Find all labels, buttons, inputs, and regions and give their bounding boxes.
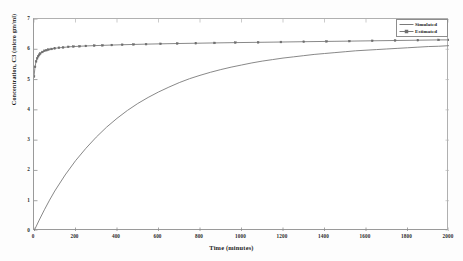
y-tick-label: 5 (18, 76, 30, 82)
series-marker-estimated (54, 47, 56, 49)
x-tick-label: 600 (153, 233, 161, 239)
x-tick-label: 1200 (277, 233, 288, 239)
chart-svg (34, 19, 449, 231)
series-marker-estimated (257, 41, 259, 43)
series-marker-estimated (121, 44, 123, 46)
y-tick-label: 0 (18, 227, 30, 233)
x-tick-label: 2000 (443, 233, 454, 239)
series-marker-estimated (111, 44, 113, 46)
series-line-simulated (34, 46, 449, 231)
legend-label-estimated: Estimated (415, 29, 437, 34)
y-tick-label: 3 (18, 136, 30, 142)
plot-area (33, 18, 448, 230)
figure-canvas: 0200400600800100012001400160018002000 01… (0, 0, 463, 261)
series-marker-estimated (79, 45, 81, 47)
x-tick-label: 1800 (401, 233, 412, 239)
series-marker-estimated (234, 42, 236, 44)
series-layer (34, 39, 449, 231)
series-marker-estimated (62, 47, 64, 49)
series-marker-estimated (36, 57, 38, 59)
series-marker-estimated (48, 49, 50, 51)
series-marker-estimated (35, 61, 37, 63)
x-tick-label: 0 (32, 233, 35, 239)
x-tick-label: 800 (195, 233, 203, 239)
x-tick-label: 200 (70, 233, 78, 239)
x-tick-label: 400 (112, 233, 120, 239)
legend[interactable]: Simulated Estimated (396, 19, 448, 37)
series-marker-estimated (176, 43, 178, 45)
series-marker-estimated (349, 40, 351, 42)
axis-tickmarks (34, 19, 449, 231)
series-marker-estimated (67, 46, 69, 48)
series-marker-estimated (448, 39, 449, 41)
series-marker-estimated (93, 45, 95, 47)
series-marker-estimated (133, 44, 135, 46)
legend-item-estimated[interactable]: Estimated (398, 28, 446, 35)
legend-line-estimated (399, 28, 414, 35)
series-marker-estimated (303, 41, 305, 43)
series-line-estimated (34, 40, 449, 77)
x-tick-label: 1600 (360, 233, 371, 239)
series-marker-estimated (438, 39, 440, 41)
y-tick-label: 6 (18, 45, 30, 51)
legend-label-simulated: Simulated (415, 22, 437, 27)
series-marker-estimated (73, 46, 75, 48)
legend-item-simulated[interactable]: Simulated (398, 21, 446, 28)
y-axis-title: Concentration, C3 (micro gm/ml) (10, 0, 17, 135)
y-tick-label: 7 (18, 15, 30, 21)
x-tick-label: 1400 (318, 233, 329, 239)
series-marker-estimated (51, 48, 53, 50)
series-marker-estimated (46, 49, 48, 51)
series-marker-estimated (34, 66, 36, 68)
series-marker-estimated (145, 43, 147, 45)
y-tick-label: 1 (18, 197, 30, 203)
series-marker-estimated (39, 53, 41, 55)
series-marker-estimated (102, 44, 104, 46)
series-marker-estimated (326, 41, 328, 43)
x-tick-label: 1000 (235, 233, 246, 239)
series-marker-estimated (34, 76, 35, 78)
y-tick-label: 2 (18, 166, 30, 172)
series-marker-estimated (41, 51, 43, 53)
series-marker-estimated (371, 40, 373, 42)
series-marker-estimated (394, 40, 396, 42)
x-axis-title: Time (minutes) (0, 244, 463, 251)
series-marker-estimated (417, 39, 419, 41)
series-marker-estimated (85, 45, 87, 47)
series-marker-estimated (160, 43, 162, 45)
series-marker-estimated (43, 50, 45, 52)
series-marker-estimated (280, 41, 282, 43)
series-marker-estimated (195, 42, 197, 44)
legend-line-simulated (399, 21, 414, 28)
y-tick-label: 4 (18, 106, 30, 112)
series-marker-estimated (58, 47, 60, 49)
series-marker-estimated (214, 42, 216, 44)
